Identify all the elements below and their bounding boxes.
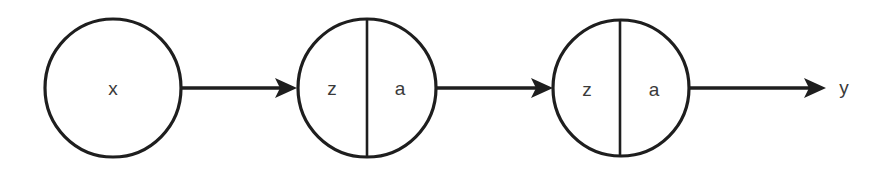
layer2-z-label: z — [582, 79, 592, 100]
input-node: x — [45, 19, 181, 157]
edge-input-to-layer1 — [181, 78, 297, 98]
input-label: x — [108, 78, 118, 99]
layer1-node: z a — [298, 19, 436, 157]
output-label: y — [839, 77, 849, 98]
edge-layer1-to-layer2 — [437, 78, 553, 98]
layer1-z-label: z — [327, 78, 337, 99]
layer2-node: z a — [553, 20, 689, 156]
diagram-canvas: x z a z a y — [0, 0, 888, 173]
layer1-a-label: a — [395, 78, 406, 99]
edge-layer2-to-output — [689, 78, 826, 98]
layer2-a-label: a — [649, 79, 660, 100]
